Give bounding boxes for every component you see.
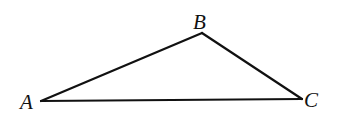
edge-ca <box>41 99 302 101</box>
edge-ab <box>41 33 202 101</box>
vertex-label-a: A <box>18 90 33 114</box>
vertex-label-b: B <box>193 10 206 34</box>
edge-bc <box>202 33 302 99</box>
vertex-label-c: C <box>304 88 319 112</box>
triangle-diagram: A B C <box>0 0 339 123</box>
